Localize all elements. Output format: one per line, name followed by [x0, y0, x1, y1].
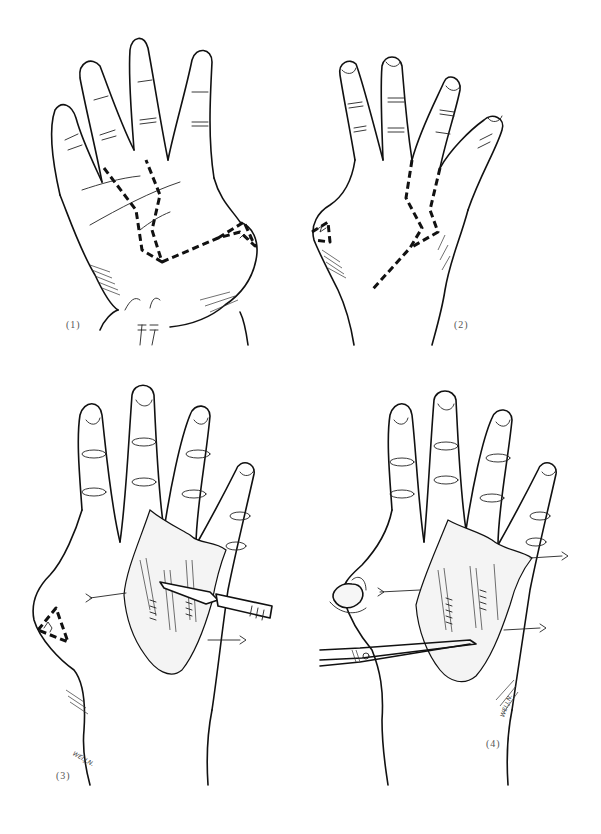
panel-1-palmar-incision: (1) [0, 0, 300, 360]
panel-label-3: (3) [56, 770, 71, 781]
panel-2-dorsal-incision: (2) [300, 0, 601, 360]
panel-3-scalpel-dissection: WEI.J.N. (3) [0, 370, 300, 790]
panel-label-1: (1) [66, 319, 81, 330]
hand-palm-illustration [0, 0, 300, 360]
panel-label-4: (4) [486, 738, 501, 749]
hand-dorsum-illustration [300, 0, 601, 360]
hand-dissection-scissors-illustration [300, 370, 601, 790]
panel-4-scissors-dissection: WEI.J.N. (4) [300, 370, 601, 790]
panel-label-2: (2) [454, 319, 469, 330]
hand-dissection-scalpel-illustration [0, 370, 300, 790]
